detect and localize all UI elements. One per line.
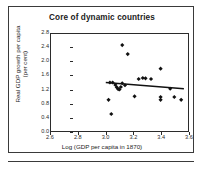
- scatter-plot-svg: [51, 34, 188, 131]
- x-tick-mark: [50, 132, 51, 135]
- scatter-point: [159, 98, 163, 102]
- scatter-point: [120, 43, 124, 47]
- y-axis-title-line1: Real GDP growth per capita: [14, 26, 21, 103]
- x-tick-label: 3.0: [95, 135, 117, 141]
- x-tick-label: 3.4: [150, 135, 172, 141]
- scatter-point: [179, 98, 183, 102]
- figure-frame: Core of dynamic countries 0.00.40.81.21.…: [8, 6, 194, 153]
- x-tick-label: 2.8: [67, 135, 89, 141]
- scatter-point: [126, 52, 130, 56]
- y-axis-title: Real GDP growth per capita (per cent): [14, 16, 28, 112]
- x-tick-label: 2.6: [39, 135, 61, 141]
- x-axis-title: Log (GDP per capita in 1870): [9, 143, 195, 150]
- x-tick-label: 3.2: [122, 135, 144, 141]
- scatter-point: [133, 94, 137, 98]
- x-tick-mark: [133, 132, 134, 135]
- scatter-point: [106, 98, 110, 102]
- scatter-point: [149, 77, 153, 81]
- x-tick-label: 3.6: [178, 135, 200, 141]
- scatter-point: [143, 76, 147, 80]
- scatter-point: [159, 67, 163, 71]
- scatter-points: [106, 43, 183, 116]
- footer-rule: [8, 161, 194, 162]
- plot-area: [50, 33, 189, 132]
- x-tick-mark: [189, 132, 190, 135]
- x-tick-mark: [106, 132, 107, 135]
- scatter-point: [172, 95, 176, 99]
- scatter-point: [137, 77, 141, 81]
- scatter-point: [109, 112, 113, 116]
- x-tick-mark: [161, 132, 162, 135]
- y-axis-title-line2: (per cent): [21, 16, 28, 112]
- x-tick-mark: [78, 132, 79, 135]
- scatter-point: [111, 80, 115, 84]
